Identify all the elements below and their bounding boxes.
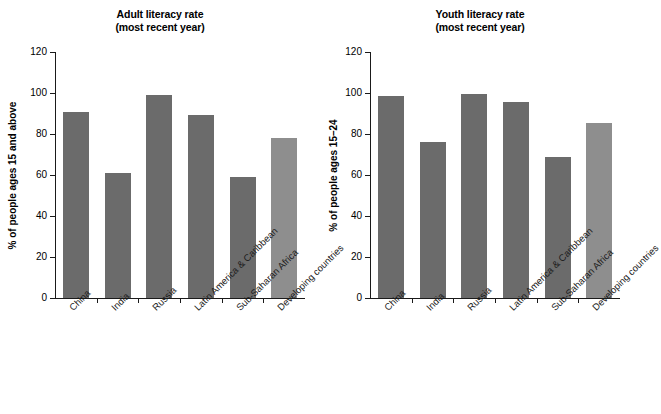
x-tick-mark xyxy=(495,298,496,303)
x-tick-mark xyxy=(537,298,538,303)
y-axis-label-youth: % of people ages 15–24 xyxy=(326,52,340,298)
y-tick-label: 40 xyxy=(36,211,47,221)
x-tick-mark xyxy=(263,298,264,303)
x-tick-mark xyxy=(412,298,413,303)
y-tick-label: 20 xyxy=(36,252,47,262)
x-tick-mark xyxy=(222,298,223,303)
y-tick-label: 40 xyxy=(351,211,362,221)
chart-panel-adult-literacy: Adult literacy rate (most recent year) %… xyxy=(0,0,320,414)
chart-title-line1: Youth literacy rate xyxy=(436,8,525,20)
bar xyxy=(63,112,89,298)
bar xyxy=(146,95,172,298)
bar xyxy=(105,173,131,298)
plot-area-youth: 020406080100120 xyxy=(370,52,620,298)
bar-series-youth xyxy=(370,52,620,298)
y-tick-mark xyxy=(365,298,370,299)
bar xyxy=(503,102,529,298)
bar xyxy=(420,142,446,298)
y-tick-label: 20 xyxy=(351,252,362,262)
y-tick-label: 120 xyxy=(30,47,47,57)
x-tick-mark xyxy=(97,298,98,303)
y-axis-label-adult: % of people ages 15 and above xyxy=(6,52,20,298)
x-tick-mark xyxy=(578,298,579,303)
y-tick-label: 0 xyxy=(41,293,47,303)
bar xyxy=(230,177,256,298)
plot-area-adult: 020406080100120 xyxy=(55,52,305,298)
chart-subtitle-line2: (most recent year) xyxy=(0,21,320,34)
y-tick-label: 80 xyxy=(351,129,362,139)
bar xyxy=(461,94,487,298)
bar xyxy=(188,115,214,298)
x-tick-mark xyxy=(180,298,181,303)
y-tick-label: 60 xyxy=(351,170,362,180)
bar xyxy=(378,96,404,298)
y-tick-label: 80 xyxy=(36,129,47,139)
chart-panel-youth-literacy: Youth literacy rate (most recent year) %… xyxy=(320,0,640,414)
chart-title-line1: Adult literacy rate xyxy=(117,8,204,20)
y-tick-mark xyxy=(50,298,55,299)
x-axis-labels-adult: ChinaIndiaRussiaLatin America & Caribbea… xyxy=(55,305,305,410)
x-tick-mark xyxy=(453,298,454,303)
chart-subtitle-line2: (most recent year) xyxy=(320,21,640,34)
y-tick-label: 100 xyxy=(30,88,47,98)
y-tick-label: 120 xyxy=(345,47,362,57)
y-tick-label: 60 xyxy=(36,170,47,180)
chart-title-youth: Youth literacy rate (most recent year) xyxy=(320,8,640,34)
bar-series-adult xyxy=(55,52,305,298)
y-tick-label: 100 xyxy=(345,88,362,98)
x-axis-labels-youth: ChinaIndiaRussiaLatin America & Caribbea… xyxy=(370,305,620,410)
y-tick-label: 0 xyxy=(356,293,362,303)
chart-title-adult: Adult literacy rate (most recent year) xyxy=(0,8,320,34)
x-tick-mark xyxy=(138,298,139,303)
